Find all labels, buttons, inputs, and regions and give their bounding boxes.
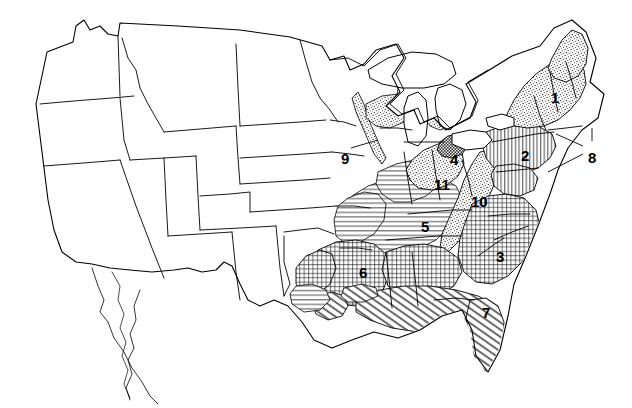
region-label-10: 10 [471, 194, 488, 209]
region-label-4: 4 [450, 152, 458, 167]
region-label-2: 2 [521, 148, 529, 163]
state-line-tx-border [284, 236, 290, 296]
state-line-or-id [120, 98, 130, 160]
region-label-9: 9 [341, 151, 349, 166]
state-line-mt-nd [236, 44, 240, 126]
region-label-1: 1 [551, 90, 559, 105]
region-label-3: 3 [496, 249, 504, 264]
state-line-ut-az [168, 232, 232, 236]
state-line-mt-wy [164, 126, 236, 132]
state-line-nd-sd [240, 120, 326, 126]
lake-michigan [404, 92, 428, 146]
state-line-ne-ks [240, 178, 330, 184]
lake-ontario [486, 114, 514, 130]
state-line-wa-id [118, 36, 120, 96]
baja-peninsula [92, 268, 158, 404]
map-canvas [0, 0, 632, 408]
region-label-5: 5 [421, 219, 429, 234]
state-line-ma-ct-ri [548, 126, 582, 130]
state-line-or-ca [44, 160, 120, 166]
region-label-8: 8 [588, 150, 596, 165]
state-line-co-ks [200, 192, 250, 212]
state-line-mn-border [300, 40, 338, 122]
lake-superior [368, 52, 456, 88]
baja-inner [112, 272, 130, 398]
leader-line-8b [548, 154, 583, 172]
state-line-ks-ok [250, 206, 336, 212]
region-label-11: 11 [434, 177, 450, 192]
state-line-co-nm [200, 226, 276, 230]
state-line-sd-ne [240, 152, 332, 158]
state-line-ok-tx [284, 228, 334, 234]
state-line-id-nv-ut [130, 156, 196, 160]
state-line-id-mt [122, 38, 164, 132]
state-line-mn-ia [330, 120, 356, 126]
leader-line-8a [556, 134, 583, 146]
state-line-nv-ut [164, 158, 168, 236]
region-label-6: 6 [359, 265, 367, 280]
region-label-7: 7 [482, 305, 490, 320]
state-line-nm-tx [276, 226, 284, 296]
map-figure: 1 2 3 4 5 6 7 8 9 10 11 [0, 0, 632, 408]
state-line-wy-co [196, 156, 200, 230]
state-line-az-nm [232, 232, 240, 300]
state-line-ca-nv [120, 160, 164, 278]
state-line-wy-sd-ne [236, 126, 240, 184]
